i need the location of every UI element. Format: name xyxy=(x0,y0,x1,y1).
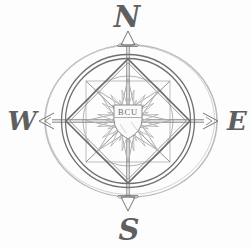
west-arrowhead-icon xyxy=(39,113,54,129)
south-arrowhead-icon xyxy=(121,197,135,211)
east-label: E xyxy=(226,106,248,136)
south-label: S xyxy=(119,213,140,247)
west-label: W xyxy=(7,106,39,136)
east-arrowhead-fishtail xyxy=(206,117,212,125)
compass-rose-image: BCU N S W E xyxy=(0,0,251,247)
shield-monogram: BCU xyxy=(118,107,138,117)
north-label: N xyxy=(113,0,142,34)
compass-rose: BCU N S W E xyxy=(0,0,251,247)
center-shield: BCU xyxy=(114,105,142,139)
east-arrowhead-icon xyxy=(203,113,218,129)
